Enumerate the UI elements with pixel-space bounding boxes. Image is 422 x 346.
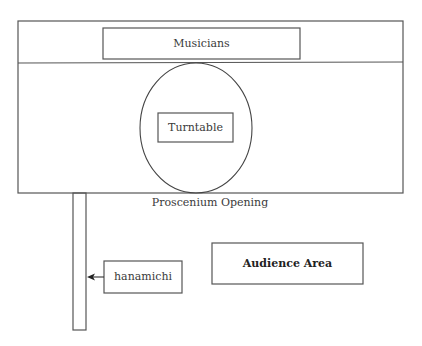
arrow-left-icon <box>87 274 104 281</box>
hanamichi-label: hanamichi <box>104 271 182 282</box>
stage-diagram <box>0 0 422 346</box>
musicians-label: Musicians <box>103 38 300 49</box>
proscenium-label: Proscenium Opening <box>150 197 270 208</box>
turntable-label: Turntable <box>158 122 233 133</box>
musicians-divider <box>18 62 403 63</box>
hanamichi-runway <box>73 193 86 330</box>
audience-label: Audience Area <box>212 258 363 269</box>
